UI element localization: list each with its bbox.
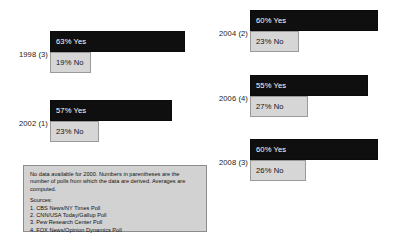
bar-2004-yes-label: 60% Yes (251, 16, 286, 25)
sources-heading: Sources: (30, 197, 200, 204)
bar-2006-no: 27% No (250, 96, 308, 117)
notes-and-sources-box: No data available for 2000. Numbers in p… (23, 165, 207, 232)
bar-1998-no-label: 19% No (51, 58, 84, 67)
source-item-1: 1. CBS News/NY Times Poll (30, 205, 200, 212)
bar-2002-yes: 57% Yes (50, 100, 172, 121)
group-label-2008: 2008 (3) (204, 158, 248, 167)
bar-2008-yes-label: 60% Yes (251, 145, 286, 154)
source-item-4: 4. FOX News/Opinion Dynamics Poll (30, 227, 200, 234)
bar-2008-no: 26% No (250, 160, 306, 181)
bar-2004-no-label: 23% No (251, 37, 284, 46)
bar-2002-no: 23% No (50, 121, 99, 142)
poll-results-bar-chart: 1998 (3) 63% Yes 19% No 2002 (1) 57% Yes… (0, 0, 395, 247)
group-label-2006: 2006 (4) (204, 94, 248, 103)
bar-1998-no: 19% No (50, 52, 91, 73)
source-item-3: 3. Pew Research Center Poll (30, 219, 200, 226)
bar-1998-yes-label: 63% Yes (51, 37, 86, 46)
group-label-2004: 2004 (2) (204, 29, 248, 38)
bar-2004-no: 23% No (250, 31, 299, 52)
notes-paragraph: No data available for 2000. Numbers in p… (30, 171, 200, 193)
bar-2006-yes: 55% Yes (250, 75, 368, 96)
source-item-2: 2. CNN/USA Today/Gallup Poll (30, 212, 200, 219)
bar-1998-yes: 63% Yes (50, 31, 185, 52)
bar-2008-yes: 60% Yes (250, 139, 378, 160)
bar-2004-yes: 60% Yes (250, 10, 378, 31)
bar-2006-yes-label: 55% Yes (251, 81, 286, 90)
group-label-1998: 1998 (3) (4, 50, 48, 59)
bar-2006-no-label: 27% No (251, 102, 284, 111)
bar-2002-no-label: 23% No (51, 127, 84, 136)
bar-2008-no-label: 26% No (251, 166, 284, 175)
bar-2002-yes-label: 57% Yes (51, 106, 86, 115)
group-label-2002: 2002 (1) (4, 119, 48, 128)
